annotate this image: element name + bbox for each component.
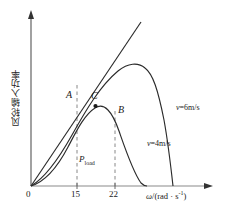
curve-label-v4: v=4m/s bbox=[147, 140, 171, 148]
load-power-subscript: load bbox=[85, 160, 95, 166]
wind-turbine-power-chart: 风轮输入功率 0 15 22 bbox=[0, 0, 226, 211]
x-tick-label-15: 15 bbox=[71, 190, 80, 199]
x-axis-paren-close: ) bbox=[183, 191, 186, 201]
origin-tick-label: 0 bbox=[26, 190, 31, 199]
point-label-b: B bbox=[118, 105, 124, 115]
point-label-a: A bbox=[66, 90, 72, 100]
x-axis-unit: /(rad · s bbox=[152, 191, 178, 201]
curve-label-v6: v=6m/s bbox=[176, 104, 200, 112]
point-label-c: C bbox=[91, 91, 98, 101]
curve-v4 bbox=[31, 106, 147, 186]
x-axis-label: ω/(rad · s-1) bbox=[146, 190, 186, 200]
curve-label-v6-value: =6m/s bbox=[180, 103, 200, 112]
curve-v6 bbox=[31, 64, 173, 186]
curve-label-v4-value: =4m/s bbox=[151, 139, 171, 148]
y-axis bbox=[28, 10, 34, 186]
x-axis bbox=[31, 183, 213, 189]
point-c-marker bbox=[93, 104, 97, 108]
x-tick-label-22: 22 bbox=[109, 190, 118, 199]
load-power-label: Pload bbox=[79, 155, 95, 166]
